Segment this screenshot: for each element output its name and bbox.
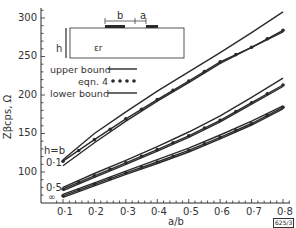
- annotation-h-eq-b: h=b: [44, 146, 65, 156]
- annotation-h-inf: ∞: [48, 193, 56, 202]
- inset-label-b: b: [117, 11, 123, 21]
- x-axis-label: a/b: [168, 217, 184, 227]
- x-tick-0.6: 0·6: [214, 207, 230, 217]
- chart-canvas: [0, 0, 296, 228]
- inset-label-a: a: [140, 11, 146, 21]
- inset-strip-left: [105, 25, 125, 28]
- x-tick-0.8: 0·8: [277, 207, 293, 217]
- legend-swatch-eqn: [118, 79, 122, 83]
- y-axis-label: Zβcps, Ω: [3, 95, 13, 139]
- y-tick-300: 300: [7, 13, 37, 23]
- x-tick-0.3: 0·3: [120, 207, 136, 217]
- legend-swatch-eqn: [111, 79, 115, 83]
- annotation-h-0.1: 0·1: [46, 158, 62, 168]
- series-line: [63, 106, 283, 195]
- legend-swatch-eqn: [132, 79, 136, 83]
- data-point: [281, 106, 285, 110]
- legend-eqn4: eqn. 4: [78, 77, 108, 87]
- figure-reference: 625/3: [273, 218, 294, 228]
- x-tick-0.4: 0·4: [151, 207, 167, 217]
- data-point: [281, 83, 285, 87]
- legend-swatch-eqn: [125, 79, 129, 83]
- legend-upper-bound: upper bound: [50, 65, 111, 75]
- inset-strip-right: [146, 25, 158, 28]
- data-point: [281, 29, 285, 33]
- x-tick-0.7: 0·7: [246, 207, 262, 217]
- data-point: [77, 149, 81, 153]
- x-tick-0.2: 0·2: [88, 207, 104, 217]
- x-tick-0.5: 0·5: [183, 207, 199, 217]
- legend-lower-bound: lower bound: [50, 89, 109, 99]
- inset-label-h: h: [56, 44, 62, 54]
- data-point: [93, 138, 97, 142]
- inset-label-er: εr: [94, 44, 103, 53]
- y-tick-100: 100: [7, 167, 37, 177]
- x-tick-0.1: 0·1: [57, 207, 73, 217]
- y-tick-250: 250: [7, 51, 37, 61]
- inset-substrate: [70, 28, 184, 58]
